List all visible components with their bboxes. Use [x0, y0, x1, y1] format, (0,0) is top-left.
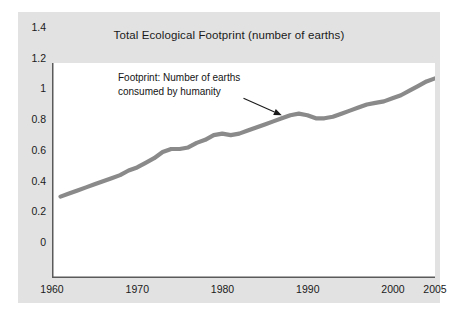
annotation-line-1: Footprint: Number of earths — [118, 71, 240, 85]
y-tick-label-1.4: 1.4 — [18, 21, 46, 33]
x-tick-label-1970: 1970 — [126, 283, 149, 295]
annotation-line-2: consumed by humanity — [118, 85, 240, 99]
chart-panel: Total Ecological Footprint (number of ea… — [18, 12, 440, 303]
x-tick-label-1990: 1990 — [296, 283, 319, 295]
axis-spines — [52, 63, 435, 278]
y-tick-label-0.2: 0.2 — [18, 205, 46, 217]
annotation-arrow-icon — [244, 98, 282, 115]
figure-canvas: Total Ecological Footprint (number of ea… — [0, 0, 454, 318]
x-tick-label-2000: 2000 — [381, 283, 404, 295]
x-tick-label-2005: 2005 — [423, 283, 446, 295]
y-tick-label-0.4: 0.4 — [18, 175, 46, 187]
y-tick-label-0.6: 0.6 — [18, 144, 46, 156]
x-tick-label-1980: 1980 — [211, 283, 234, 295]
y-tick-label-0: 0 — [18, 236, 46, 248]
chart-title: Total Ecological Footprint (number of ea… — [18, 29, 440, 41]
y-tick-label-1.2: 1.2 — [18, 52, 46, 64]
y-tick-label-1: 1 — [18, 82, 46, 94]
footprint-annotation: Footprint: Number of earths consumed by … — [118, 71, 240, 98]
x-tick-label-1960: 1960 — [40, 283, 63, 295]
y-tick-label-0.8: 0.8 — [18, 113, 46, 125]
plot-area: Footprint: Number of earths consumed by … — [52, 63, 435, 278]
line-chart-svg — [52, 63, 435, 278]
footprint-line — [61, 78, 435, 196]
